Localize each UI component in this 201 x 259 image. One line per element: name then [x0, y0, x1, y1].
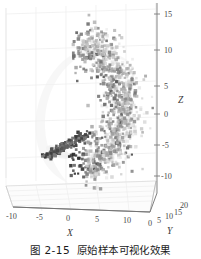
x-tick-label: -10 [6, 212, 17, 221]
scatter-points [41, 14, 154, 191]
y-tick-label: 5 [157, 216, 161, 225]
y-tick-label: 10 [165, 212, 173, 221]
x-axis-label: X [66, 228, 74, 238]
y-tick-labels: 0 5 10 15 20 [148, 201, 188, 228]
z-tick-label: 0 [164, 110, 168, 119]
x-tick-label: 5 [95, 215, 99, 224]
z-axis-label: Z [178, 95, 184, 105]
x-tick-label: 0 [66, 214, 70, 223]
scatter3d-plot: 15 10 5 0 -5 -10 -10 -5 0 5 10 0 5 10 15 [0, 0, 201, 240]
z-tick-label: -5 [162, 141, 169, 150]
y-axis-label: Y [167, 226, 174, 236]
z-tick-label: 5 [164, 82, 168, 91]
z-tick-labels: 15 10 5 0 -5 -10 [161, 10, 172, 181]
caption-text: 原始样本可视化效果 [77, 244, 171, 256]
z-tick-label: 15 [164, 10, 172, 19]
y-tick-label: 0 [148, 219, 152, 228]
plot-area: 15 10 5 0 -5 -10 -10 -5 0 5 10 0 5 10 15 [0, 0, 201, 240]
y-tick-label: 20 [180, 201, 188, 210]
caption-number: 图 2-15 [30, 244, 70, 256]
x-tick-label: 10 [123, 216, 131, 225]
figure-caption: 图 2-15原始样本可视化效果 [0, 242, 201, 257]
z-tick-label: -10 [161, 172, 172, 181]
figure-container: 15 10 5 0 -5 -10 -10 -5 0 5 10 0 5 10 15 [0, 0, 201, 259]
z-tick-label: 10 [164, 46, 172, 55]
x-tick-label: -5 [36, 213, 43, 222]
x-tick-labels: -10 -5 0 5 10 [6, 212, 131, 225]
